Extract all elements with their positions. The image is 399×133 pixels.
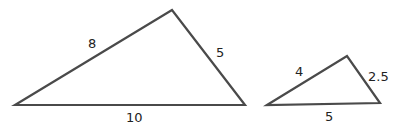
large-triangle: 8 5 10 [15,10,245,125]
large-triangle-shape [15,10,245,105]
large-triangle-right-side-label: 5 [216,45,224,60]
small-triangle: 4 2.5 5 [267,56,389,124]
large-triangle-base-label: 10 [126,110,143,125]
similar-triangles-diagram: 8 5 10 4 2.5 5 [0,0,399,133]
small-triangle-base-label: 5 [325,109,333,124]
small-triangle-left-side-label: 4 [295,64,303,79]
small-triangle-right-side-label: 2.5 [368,69,389,84]
large-triangle-left-side-label: 8 [88,36,96,51]
small-triangle-shape [267,56,380,105]
